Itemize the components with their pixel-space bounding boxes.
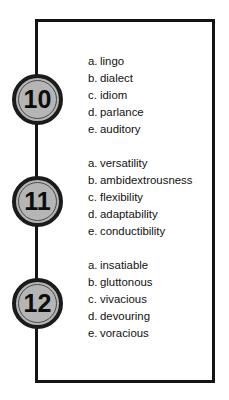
question-list: 10 a.lingo b.dialect c.idiom d.parlance …	[0, 0, 229, 400]
answer-option-text: ambidextrousness	[100, 174, 192, 186]
answer-option[interactable]: e.voracious	[88, 325, 222, 342]
answer-option-list: a.insatiable b.gluttonous c.vivacious d.…	[88, 257, 222, 342]
answer-option[interactable]: e.conductibility	[88, 223, 222, 240]
answer-option-letter: b.	[88, 172, 100, 189]
answer-option-letter: d.	[88, 104, 100, 121]
answer-option-text: auditory	[100, 123, 141, 135]
question-number-medallion: 10	[12, 74, 63, 125]
answer-option[interactable]: b.dialect	[88, 70, 222, 87]
question-number-medallion: 11	[12, 176, 63, 227]
answer-option[interactable]: b.ambidextrousness	[88, 172, 222, 189]
answer-option[interactable]: e.auditory	[88, 121, 222, 138]
answer-option-text: voracious	[100, 327, 149, 339]
answer-option[interactable]: c.idiom	[88, 87, 222, 104]
answer-option-letter: d.	[88, 308, 100, 325]
answer-option[interactable]: a.lingo	[88, 53, 222, 70]
answer-option-text: dialect	[100, 72, 133, 84]
answer-option[interactable]: a.versatility	[88, 155, 222, 172]
question-page: 10 a.lingo b.dialect c.idiom d.parlance …	[0, 0, 229, 400]
answer-option-text: versatility	[100, 157, 147, 169]
answer-option[interactable]: c.vivacious	[88, 291, 222, 308]
answer-option-letter: a.	[88, 257, 100, 274]
answer-option-text: vivacious	[100, 293, 147, 305]
answer-option[interactable]: a.insatiable	[88, 257, 222, 274]
answer-option[interactable]: d.parlance	[88, 104, 222, 121]
answer-option-letter: c.	[88, 291, 100, 308]
answer-option-text: adaptability	[100, 208, 158, 220]
answer-option-letter: e.	[88, 223, 100, 240]
answer-option[interactable]: c.flexibility	[88, 189, 222, 206]
answer-option-letter: e.	[88, 121, 100, 138]
answer-option-letter: d.	[88, 206, 100, 223]
answer-option-list: a.versatility b.ambidextrousness c.flexi…	[88, 155, 222, 240]
answer-option-letter: a.	[88, 53, 100, 70]
answer-option-text: gluttonous	[100, 276, 153, 288]
answer-option[interactable]: d.adaptability	[88, 206, 222, 223]
answer-option-text: insatiable	[100, 259, 148, 271]
answer-option-text: idiom	[100, 89, 127, 101]
answer-option-text: flexibility	[100, 191, 143, 203]
answer-option-text: parlance	[100, 106, 144, 118]
answer-option[interactable]: d.devouring	[88, 308, 222, 325]
answer-option-letter: e.	[88, 325, 100, 342]
answer-option-letter: b.	[88, 70, 100, 87]
question-number-label: 12	[24, 291, 52, 316]
answer-option-text: conductibility	[100, 225, 165, 237]
answer-option-text: devouring	[100, 310, 150, 322]
answer-option-letter: c.	[88, 87, 100, 104]
question-number-label: 10	[24, 87, 52, 112]
question-number-medallion: 12	[12, 278, 63, 329]
answer-option-letter: c.	[88, 189, 100, 206]
question-number-label: 11	[24, 189, 50, 214]
answer-option-text: lingo	[100, 55, 124, 67]
answer-option-letter: a.	[88, 155, 100, 172]
answer-option[interactable]: b.gluttonous	[88, 274, 222, 291]
answer-option-list: a.lingo b.dialect c.idiom d.parlance e.a…	[88, 53, 222, 138]
answer-option-letter: b.	[88, 274, 100, 291]
